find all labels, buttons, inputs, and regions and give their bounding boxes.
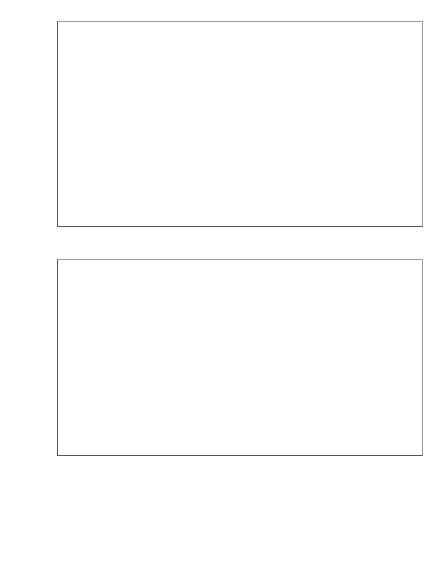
figure xyxy=(0,0,431,565)
bottom-chart-panel xyxy=(0,248,431,463)
category-label-row xyxy=(57,461,423,523)
top-bar-series xyxy=(58,22,422,226)
top-chart-panel xyxy=(0,0,431,240)
bottom-plot-area xyxy=(57,259,423,456)
bottom-x-tick-row xyxy=(57,456,423,460)
top-plot-area xyxy=(57,21,423,227)
top-x-tick-row xyxy=(57,227,423,231)
bottom-bar-series xyxy=(58,260,422,455)
